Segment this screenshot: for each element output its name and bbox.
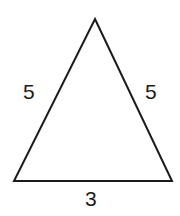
base-side-length-label: 3: [85, 188, 97, 209]
right-side-length-label: 5: [145, 81, 157, 102]
triangle-shape: [0, 0, 180, 216]
triangle-diagram: 5 5 3: [0, 0, 180, 216]
left-side-length-label: 5: [23, 81, 35, 102]
